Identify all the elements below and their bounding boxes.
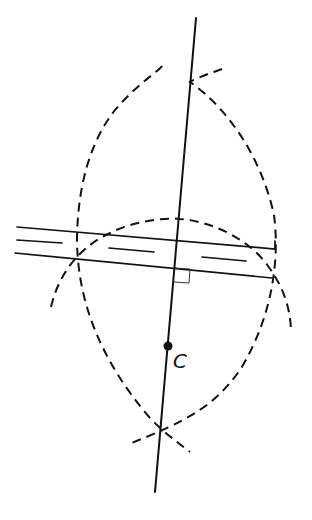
large-arc-left — [77, 66, 190, 452]
parallel-line-lower — [15, 253, 272, 278]
point-c — [164, 342, 173, 351]
point-c-label: C — [173, 349, 187, 373]
geometry-diagram — [0, 0, 312, 520]
perpendicular-line — [155, 18, 196, 492]
